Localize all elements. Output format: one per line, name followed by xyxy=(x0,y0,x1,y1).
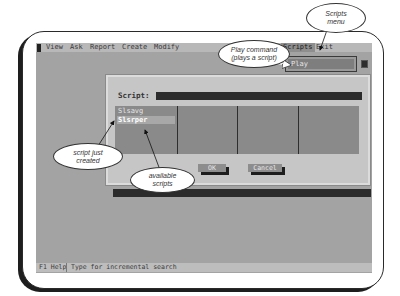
menu-ask[interactable]: Ask xyxy=(70,43,83,52)
ok-button[interactable]: OK xyxy=(198,164,226,172)
menu-view[interactable]: View xyxy=(46,43,63,52)
callout-scripts-menu: Scripts menu xyxy=(306,3,366,33)
list-item-slsrper[interactable]: Slsrper xyxy=(117,116,175,124)
status-divider xyxy=(66,263,67,272)
status-bar: F1 Help Type for incremental search xyxy=(36,263,372,272)
list-item-slsavg[interactable]: Slsavg xyxy=(117,107,175,115)
callout-available-scripts: available scripts xyxy=(130,167,195,193)
menu-report[interactable]: Report xyxy=(90,43,115,52)
script-input[interactable] xyxy=(156,92,362,100)
script-label: Script: xyxy=(118,91,150,100)
list-column-divider xyxy=(177,106,178,154)
callout-play-command: Play command (plays a script) xyxy=(218,40,290,68)
menu-modify[interactable]: Modify xyxy=(154,43,179,52)
dropdown-scroll-icon xyxy=(361,60,368,68)
list-column-divider xyxy=(237,106,238,154)
script-list[interactable]: Slsavg Slsrper xyxy=(115,106,359,154)
menu-create[interactable]: Create xyxy=(122,43,147,52)
menu-item-play[interactable]: Play xyxy=(288,59,354,69)
scripts-dropdown-menu: Play xyxy=(285,56,357,72)
list-column-divider xyxy=(298,106,299,154)
system-menu-icon[interactable] xyxy=(37,44,41,52)
menu-exit[interactable]: Exit xyxy=(316,43,333,52)
callout-script-just-created: script just created xyxy=(53,143,123,170)
help-hint: F1 Help xyxy=(39,263,66,272)
cancel-button[interactable]: Cancel xyxy=(248,164,282,172)
menu-bar: View Ask Report Create Modify Tools Scri… xyxy=(36,43,372,52)
status-message: Type for incremental search xyxy=(71,263,177,272)
